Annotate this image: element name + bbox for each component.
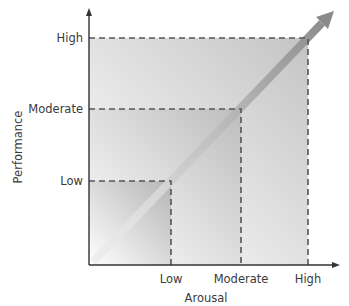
x-tick-moderate: Moderate [214, 272, 269, 286]
x-axis-arrowhead-icon [332, 262, 340, 268]
y-axis-arrowhead-icon [86, 8, 92, 16]
y-tick-high: High [57, 31, 83, 45]
arousal-performance-diagram: High Moderate Low Low Moderate High Arou… [0, 0, 349, 306]
y-axis-title: Performance [11, 111, 25, 184]
y-tick-low: Low [60, 174, 83, 188]
x-tick-low: Low [160, 272, 183, 286]
x-tick-high: High [295, 272, 321, 286]
x-axis-title: Arousal [185, 291, 228, 305]
y-tick-moderate: Moderate [28, 102, 83, 116]
